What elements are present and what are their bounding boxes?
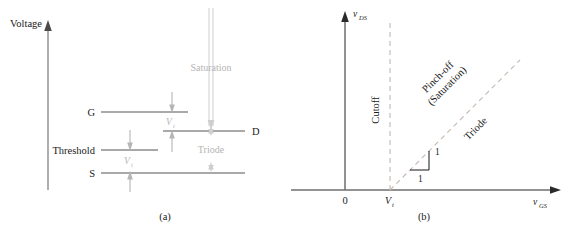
vt-upper-dimension: V t [166, 92, 175, 152]
source-label: S [89, 168, 95, 179]
saturation-indicator: Saturation [190, 8, 231, 130]
vt-upper-subscript: t [173, 122, 175, 129]
panel-b-xaxis-label: v [533, 197, 538, 207]
slope-rise-label: 1 [435, 147, 440, 157]
panel-b-yaxis-subscript: DS [358, 14, 368, 21]
slope-triangle: 1 1 [410, 147, 440, 184]
figure-svg: Voltage G D Threshold S V t V t [0, 0, 576, 233]
vt-lower-dimension: V t [124, 130, 133, 192]
panel-a: Voltage G D Threshold S V t V t [10, 8, 260, 223]
vt-upper-label: V [166, 117, 173, 127]
panel-b-xaxis-subscript: GS [539, 202, 548, 209]
triode-label: Triode [198, 144, 225, 155]
panel-a-axis-label: Voltage [10, 18, 42, 29]
panel-a-voltage-axis [44, 20, 52, 190]
panel-b: v DS v GS 0 V t 1 1 Cutoff Pinch-off (Sa… [291, 9, 561, 223]
origin-tick-label: 0 [342, 195, 347, 206]
drain-label: D [252, 126, 260, 137]
gate-label: G [87, 107, 95, 118]
pinchoff-region-label: Pinch-off (Saturation) [416, 55, 469, 108]
triode-region-label: Triode [462, 115, 490, 143]
panel-b-xaxis [291, 186, 561, 194]
slope-run-label: 1 [418, 174, 423, 184]
panel-a-caption: (a) [159, 211, 171, 223]
threshold-label: Threshold [52, 145, 95, 156]
panel-b-yaxis-label: v [353, 9, 358, 19]
triode-indicator: Triode [198, 126, 225, 172]
panel-b-yaxis [341, 11, 349, 190]
saturation-label: Saturation [190, 62, 231, 73]
figure-container: Voltage G D Threshold S V t V t [0, 0, 576, 233]
threshold-tick-subscript: t [392, 201, 394, 208]
vt-lower-subscript: t [131, 161, 133, 168]
cutoff-region-label: Cutoff [370, 96, 381, 124]
vt-lower-label: V [124, 156, 131, 166]
panel-b-caption: (b) [418, 211, 431, 223]
